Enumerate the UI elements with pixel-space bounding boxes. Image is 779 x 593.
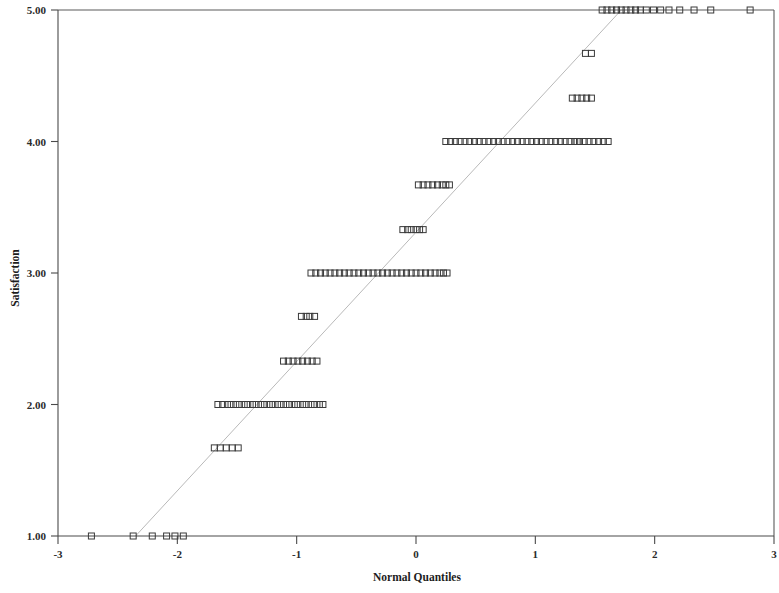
data-point-marker — [229, 445, 235, 451]
y-axis-tick-label: 1.00 — [27, 530, 47, 542]
data-point-marker — [446, 182, 452, 188]
normal-reference-line — [136, 10, 622, 536]
y-axis-tick-label: 4.00 — [27, 136, 47, 148]
x-axis-title: Normal Quantiles — [373, 571, 461, 583]
y-axis-tick-label: 2.00 — [27, 399, 47, 411]
axis-ticks — [51, 10, 774, 544]
data-point-marker — [588, 50, 594, 56]
y-axis-tick-label: 3.00 — [27, 267, 47, 279]
y-axis-title: Satisfaction — [9, 249, 21, 307]
x-axis-tick-label: 1 — [533, 548, 539, 560]
qq-plot-figure: 1.002.003.004.005.00-3-2-10123 Normal Qu… — [0, 0, 779, 593]
x-axis-tick-label: 0 — [413, 548, 419, 560]
data-point-marker — [223, 445, 229, 451]
reference-line — [136, 10, 622, 536]
data-point-marker — [440, 270, 446, 276]
x-axis-tick-label: 2 — [652, 548, 658, 560]
y-axis-tick-label: 5.00 — [27, 4, 47, 16]
x-axis-tick-label: -2 — [173, 548, 183, 560]
data-point-marker — [417, 227, 423, 233]
qq-plot-canvas: 1.002.003.004.005.00-3-2-10123 Normal Qu… — [0, 0, 779, 593]
data-point-markers — [88, 7, 753, 539]
data-point-marker — [320, 402, 326, 408]
x-axis-tick-label: -3 — [53, 548, 63, 560]
x-axis-tick-label: 3 — [771, 548, 777, 560]
axis-tick-labels: 1.002.003.004.005.00-3-2-10123 — [27, 4, 778, 560]
data-point-marker — [443, 182, 449, 188]
data-point-marker — [444, 270, 450, 276]
data-point-marker — [235, 445, 241, 451]
x-axis-tick-label: -1 — [292, 548, 301, 560]
plot-frame — [58, 10, 774, 536]
data-point-marker — [574, 139, 580, 145]
